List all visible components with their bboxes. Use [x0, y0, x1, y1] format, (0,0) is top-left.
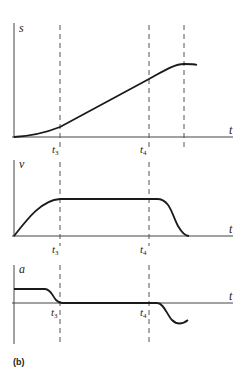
a-axis-label: a	[19, 263, 25, 275]
s-t-axis-label: t	[229, 124, 232, 136]
a-t4-label: t4	[140, 307, 147, 320]
acceleration-panel	[12, 265, 233, 344]
motion-graphs	[0, 0, 250, 386]
a-t-axis-label: t	[229, 290, 232, 302]
velocity-panel	[12, 160, 233, 246]
s-axis-label: s	[19, 22, 24, 34]
s-t4-label: t4	[140, 144, 147, 157]
displacement-curve	[14, 64, 197, 137]
figure-caption: (b)	[13, 357, 25, 367]
v-t3-label: t3	[52, 244, 59, 257]
v-t-axis-label: t	[229, 223, 232, 235]
v-axis-label: v	[19, 158, 24, 170]
v-t4-label: t4	[140, 244, 147, 257]
velocity-curve	[14, 199, 189, 236]
a-t3-label: t3	[51, 307, 58, 320]
displacement-panel	[12, 23, 233, 147]
acceleration-curve	[14, 289, 188, 323]
s-t3-label: t3	[52, 144, 59, 157]
